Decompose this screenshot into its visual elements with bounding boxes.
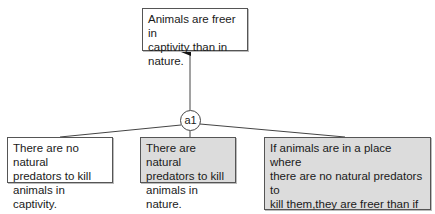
premise-text-3: If animals are in a place where there ar… (270, 141, 425, 214)
premise-text-1: There are no natural predators to kill a… (13, 141, 107, 211)
argument-node-a1: a1 (180, 110, 201, 131)
argument-node-label: a1 (184, 114, 196, 126)
premise-box-1: There are no natural predators to kill a… (7, 137, 113, 183)
conclusion-box: Animals are freer in captivity than in n… (142, 8, 248, 51)
link-premise-3 (200, 124, 345, 137)
conclusion-text: Animals are freer in captivity than in n… (148, 12, 242, 68)
premise-text-2: There are natural predators to kill anim… (146, 141, 230, 211)
link-premise-1 (60, 125, 181, 137)
premise-box-3: If animals are in a place where there ar… (264, 137, 431, 210)
premise-box-2: There are natural predators to kill anim… (140, 137, 236, 183)
